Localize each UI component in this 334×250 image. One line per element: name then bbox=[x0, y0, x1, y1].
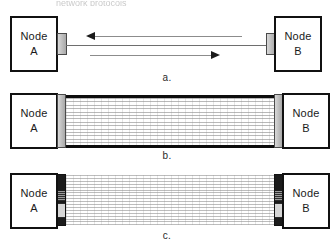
network-link-figure: network protocols Node A Node B a. Node … bbox=[0, 0, 334, 250]
panel-c-packet-lines bbox=[66, 175, 274, 225]
panel-a: Node A Node B a. bbox=[0, 0, 334, 90]
node-label-line1: Node bbox=[284, 29, 311, 44]
connector-pin-block bbox=[58, 191, 65, 201]
node-label-line2: B bbox=[294, 44, 302, 59]
panel-b: Node A Node B b. bbox=[0, 88, 334, 170]
panel-a-node-a: Node A bbox=[10, 16, 58, 72]
node-label-line1: Node bbox=[292, 106, 319, 121]
node-label-line2: A bbox=[30, 121, 38, 136]
node-label-line2: A bbox=[30, 44, 38, 59]
panel-c-caption: c. bbox=[0, 230, 334, 241]
panel-b-left-connector-icon bbox=[57, 94, 66, 148]
node-label-line2: B bbox=[302, 201, 310, 216]
panel-a-left-connector-icon bbox=[57, 33, 67, 55]
node-label-line1: Node bbox=[20, 106, 47, 121]
panel-b-node-b: Node B bbox=[282, 93, 330, 149]
connector-pin-light bbox=[58, 203, 65, 218]
panel-b-packet-lines bbox=[66, 98, 274, 145]
connector-pin-light bbox=[275, 203, 282, 218]
node-label-line1: Node bbox=[20, 186, 47, 201]
arrow-right-icon bbox=[211, 51, 220, 59]
panel-a-caption: a. bbox=[0, 72, 334, 83]
arrow-left-icon bbox=[86, 32, 95, 40]
node-label-line2: B bbox=[302, 121, 310, 136]
panel-c-left-connector-icon bbox=[57, 174, 66, 226]
connector-pin-block bbox=[275, 191, 282, 201]
panel-a-link-line-outbound bbox=[90, 55, 212, 56]
panel-b-node-a: Node A bbox=[10, 93, 58, 149]
panel-c: Node A Node B c. bbox=[0, 168, 334, 250]
node-label-line2: A bbox=[30, 201, 38, 216]
panel-a-node-b: Node B bbox=[274, 16, 322, 72]
node-label-line1: Node bbox=[292, 186, 319, 201]
panel-c-node-a: Node A bbox=[10, 173, 58, 229]
panel-a-link-line-inbound bbox=[94, 36, 242, 37]
panel-b-caption: b. bbox=[0, 150, 334, 161]
panel-a-link-line-medium bbox=[66, 45, 274, 46]
panel-b-pipe-bottom-rail bbox=[66, 145, 274, 148]
panel-c-node-b: Node B bbox=[282, 173, 330, 229]
node-label-line1: Node bbox=[20, 29, 47, 44]
